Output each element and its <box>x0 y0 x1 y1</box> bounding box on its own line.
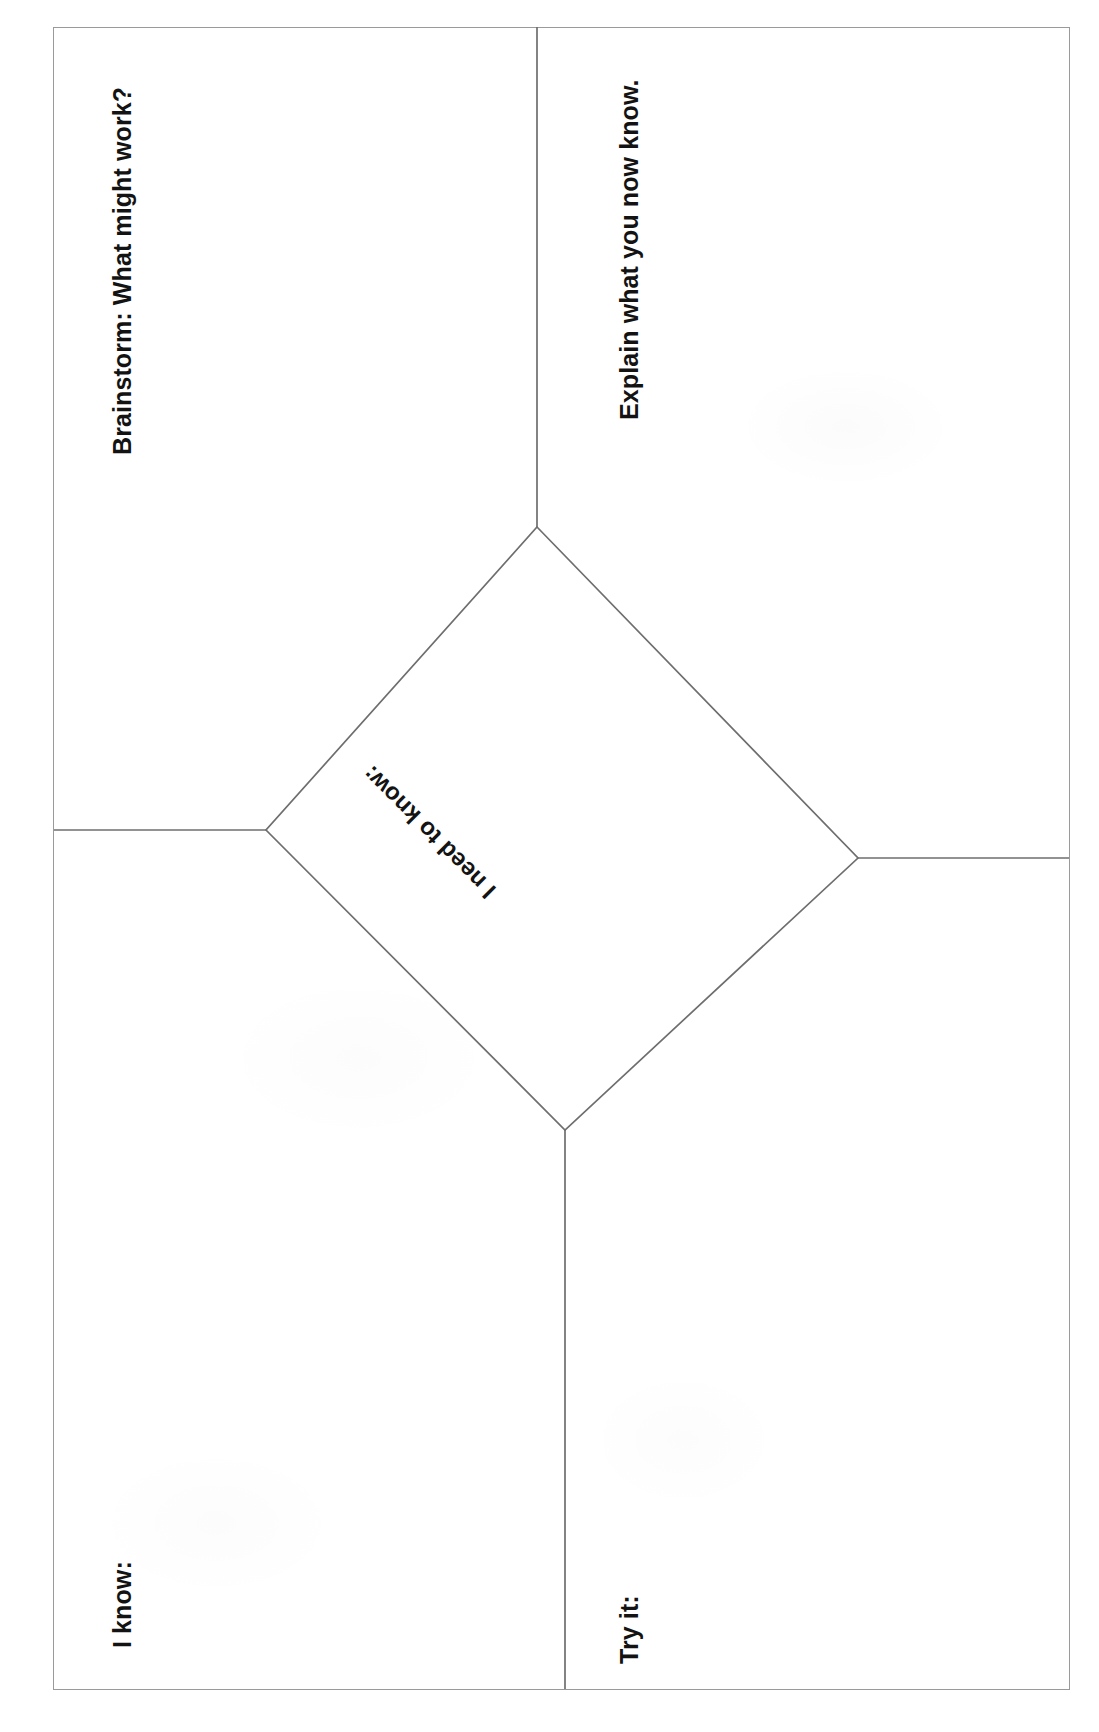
worksheet-sheet <box>53 27 1070 1690</box>
quadrant-label-explain: Explain what you now know. <box>617 79 642 420</box>
quadrant-label-try-it: Try it: <box>617 1595 642 1664</box>
paper-texture <box>54 28 1069 1689</box>
page-canvas: Brainstorm: What might work? Explain wha… <box>0 0 1099 1732</box>
quadrant-label-brainstorm: Brainstorm: What might work? <box>110 87 135 455</box>
quadrant-label-i-know: I know: <box>110 1561 135 1648</box>
